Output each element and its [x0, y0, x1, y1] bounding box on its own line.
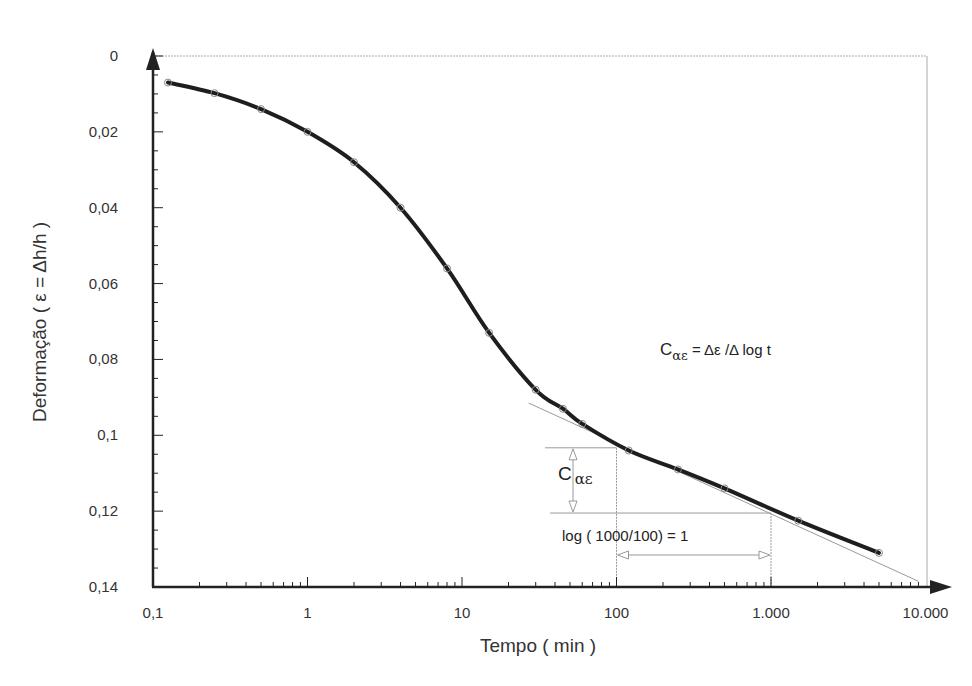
x-tick-label: 0,1 [143, 604, 164, 621]
y-axis-title: Deformação ( ε = Δh/h ) [29, 222, 50, 422]
formula-annotation: Cαε = Δε /Δ log t [660, 340, 772, 363]
log-interval-label: log ( 1000/100) = 1 [562, 527, 688, 544]
x-tick-label: 1.000 [752, 604, 790, 621]
calpha-label: Cαε [558, 463, 593, 488]
x-tick-label: 10 [454, 604, 471, 621]
calpha-c: C [558, 463, 572, 484]
formula-c: C [660, 340, 672, 359]
y-tick-label: 0,1 [97, 426, 118, 443]
y-tick-label: 0 [110, 47, 118, 64]
y-tick-label: 0,04 [89, 199, 118, 216]
x-axis-ticks: 0,11101001.00010.000 [143, 577, 949, 621]
y-axis-arrow-icon [146, 48, 160, 70]
arrow-left-icon [618, 551, 629, 559]
consolidation-curve [168, 83, 879, 553]
y-tick-label: 0,06 [89, 275, 118, 292]
data-markers [164, 79, 882, 556]
x-tick-label: 1 [303, 604, 311, 621]
y-tick-label: 0,02 [89, 123, 118, 140]
arrow-right-icon [759, 551, 770, 559]
arrow-up-icon [569, 449, 577, 460]
x-axis-title: Tempo ( min ) [480, 635, 596, 656]
y-tick-label: 0,08 [89, 350, 118, 367]
calpha-subscript: αε [575, 470, 593, 488]
x-tick-label: 10.000 [903, 604, 949, 621]
x-tick-label: 100 [604, 604, 629, 621]
annotation-guides [545, 448, 771, 587]
y-tick-label: 0,12 [89, 502, 118, 519]
y-tick-label: 0,14 [89, 578, 118, 595]
data-curve [168, 83, 879, 553]
x-axis-arrow-icon [930, 580, 952, 594]
consolidation-chart: 0,11101001.00010.000 00,020,040,060,080,… [0, 0, 972, 686]
arrow-down-icon [569, 501, 577, 512]
formula-rest: = Δε /Δ log t [688, 341, 772, 358]
formula-subscript: αε [672, 348, 688, 363]
